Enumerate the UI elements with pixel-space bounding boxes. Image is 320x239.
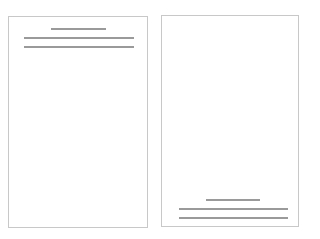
text-line bbox=[24, 37, 134, 39]
title-line bbox=[206, 199, 260, 201]
text-line bbox=[179, 217, 288, 219]
title-line bbox=[51, 28, 106, 30]
text-line bbox=[24, 46, 134, 48]
page-footer-layout bbox=[161, 15, 299, 227]
text-line bbox=[179, 208, 288, 210]
